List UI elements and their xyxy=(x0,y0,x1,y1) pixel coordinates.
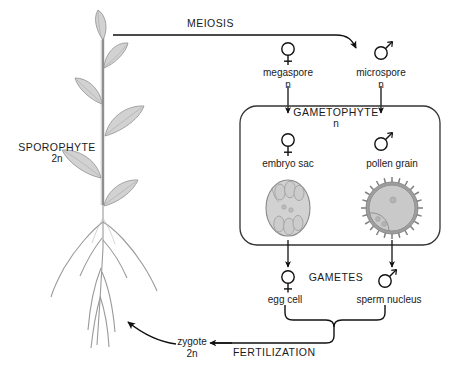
plant-leaf xyxy=(105,106,144,136)
plant-roots xyxy=(51,205,157,348)
mars-symbol xyxy=(375,133,393,151)
zygote-to-sporophyte-arrow xyxy=(128,322,176,344)
venus-symbol xyxy=(282,43,294,65)
mars-symbol xyxy=(379,270,397,288)
megaspore-label: megaspore xyxy=(263,68,313,79)
sperm-nucleus-label: sperm nucleus xyxy=(356,295,421,306)
life-cycle-diagram xyxy=(0,0,456,370)
sporophyte-ploidy-label: 2n xyxy=(51,154,62,165)
venus-symbol xyxy=(282,271,294,293)
plant-leaf xyxy=(104,180,138,206)
zygote-label: zygote xyxy=(177,337,206,348)
meiosis-label: MEIOSIS xyxy=(187,18,234,29)
sporophyte-label: SPOROPHYTE xyxy=(18,142,95,153)
fertilization-bracket-right xyxy=(334,305,385,327)
pollen-grain-illustration xyxy=(361,177,423,239)
fertilization-bracket-left xyxy=(214,305,334,343)
egg-cell-label: egg cell xyxy=(268,295,302,306)
fertilization-label: FERTILIZATION xyxy=(233,347,315,358)
plant-leaf xyxy=(96,10,106,40)
mars-symbol xyxy=(375,42,393,60)
plant-leaf xyxy=(75,78,102,104)
gametophyte-label: GAMETOPHYTE xyxy=(293,107,378,118)
embryo-sac-label: embryo sac xyxy=(262,159,314,170)
plant-leaf xyxy=(104,43,128,68)
microspore-label: microspore xyxy=(356,68,405,79)
plant-leaf xyxy=(62,150,101,178)
microspore-ploidy-label: n xyxy=(378,80,384,91)
gametes-label: GAMETES xyxy=(309,272,364,283)
megaspore-ploidy-label: n xyxy=(285,80,291,91)
zygote-ploidy-label: 2n xyxy=(186,349,197,360)
sporophyte-plant-illustration xyxy=(51,10,157,348)
pollen-grain-label: pollen grain xyxy=(366,159,418,170)
gametophyte-ploidy-label: n xyxy=(333,119,339,130)
embryo-sac-illustration xyxy=(266,180,310,236)
venus-symbol xyxy=(282,134,294,156)
meiosis-arrow xyxy=(113,35,356,48)
